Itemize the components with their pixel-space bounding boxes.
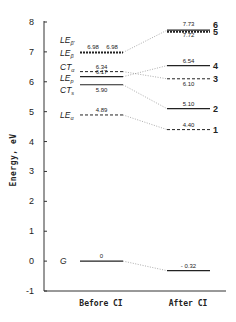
state-number-s2: 2	[213, 104, 218, 114]
state-number-s1: 1	[213, 125, 218, 135]
state-number-s5: 5	[213, 27, 218, 37]
state-label-LEb1: LEβ	[60, 48, 74, 59]
value-label-s3: 6.10	[183, 81, 195, 87]
correlation-line	[123, 72, 167, 79]
y-tick-label: 1	[29, 226, 34, 236]
y-tick-label: 5	[29, 107, 34, 117]
y-tick-label: 0	[29, 256, 34, 266]
y-axis-title: Energy, eV	[9, 133, 18, 186]
state-label-G: G	[60, 256, 67, 266]
axes: 876543210-1	[26, 17, 226, 296]
value-label-s5: 7.72	[183, 32, 195, 38]
state-label-LEa: LEα	[60, 110, 74, 121]
correlation-line	[123, 85, 167, 109]
y-tick-label: 4	[29, 137, 34, 147]
value-label-g: - 0.32	[181, 263, 197, 269]
state-label-LEp: LEp	[60, 73, 73, 84]
value-label-LEp: 6.17	[96, 69, 108, 75]
value-label-s6: 7.73	[183, 21, 195, 27]
value-label-LEa: 4.89	[96, 107, 108, 113]
value-label-s4: 6.54	[183, 58, 195, 64]
correlation-line	[123, 30, 167, 52]
y-tick-label: 3	[29, 166, 34, 176]
value-label-LEb2: 6.98	[87, 44, 99, 50]
state-label-LEb2: LEβ'	[60, 35, 76, 46]
state-label-CTs: CTs	[60, 85, 74, 96]
levels-before-ci: LEβ'6.98LEβ6.98CTα6.34LEp6.17CTs5.90LEα4…	[60, 35, 123, 266]
levels-after-ci: 7.7367.7256.5446.1035.1024.401- 0.32	[167, 20, 218, 271]
value-label-G: 0	[100, 253, 104, 259]
x-category-before: Before CI	[79, 299, 123, 308]
x-category-after: After CI	[169, 299, 208, 308]
correlation-line	[123, 261, 167, 271]
correlation-line	[123, 66, 167, 77]
y-tick-label: 2	[29, 196, 34, 206]
y-tick-label: -1	[26, 286, 34, 296]
y-tick-label: 6	[29, 77, 34, 87]
state-number-s4: 4	[213, 61, 218, 71]
value-label-s1: 4.40	[183, 122, 195, 128]
correlation-lines	[123, 30, 167, 270]
y-tick-label: 7	[29, 47, 34, 57]
value-label-s2: 5.10	[183, 101, 195, 107]
y-tick-label: 8	[29, 17, 34, 27]
state-number-s3: 3	[213, 74, 218, 84]
correlation-line	[123, 115, 167, 130]
value-label-CTs: 5.90	[96, 87, 108, 93]
energy-level-diagram: 876543210-1 Energy, eV Before CI After C…	[0, 0, 236, 322]
state-label-CTa: CTα	[60, 62, 75, 73]
value-label-LEb1: 6.98	[106, 44, 118, 50]
